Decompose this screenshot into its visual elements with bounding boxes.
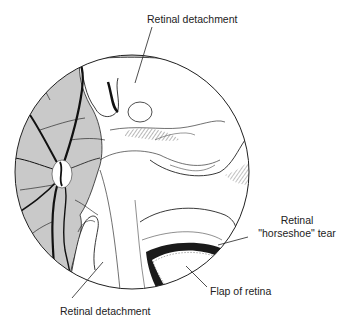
label-tear-line1: Retinal: [252, 214, 342, 226]
label-flap: Flap of retina: [210, 285, 271, 297]
fundus-illustration: [0, 0, 347, 321]
label-top-detachment: Retinal detachment: [147, 13, 237, 25]
label-bottom-detachment: Retinal detachment: [60, 305, 150, 317]
label-tear-line2: "horseshoe" tear: [252, 227, 342, 239]
